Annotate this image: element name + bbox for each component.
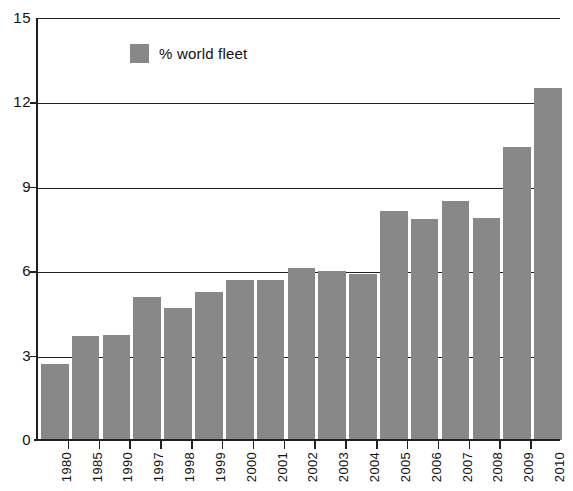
y-axis-tick-label: 3: [3, 348, 31, 363]
bar: [380, 211, 408, 440]
bar: [442, 201, 470, 440]
plot-area: [36, 18, 560, 440]
bars-layer: [38, 19, 560, 440]
bar: [411, 219, 439, 440]
x-axis-tick-mark: [68, 440, 70, 449]
x-axis-tick-label: 2001: [275, 452, 290, 482]
x-axis-tick-mark: [222, 440, 224, 449]
bar: [41, 364, 69, 440]
y-axis-tick-label: 15: [3, 10, 31, 25]
x-axis-tick-mark: [407, 440, 409, 449]
bar: [164, 308, 192, 440]
x-axis-tick-label: 2005: [398, 452, 413, 482]
y-axis-tick-label: 0: [3, 432, 31, 447]
x-axis-tick-label: 1985: [90, 452, 105, 482]
y-axis-tick-label: 6: [3, 263, 31, 278]
bar: [103, 335, 131, 441]
x-axis-tick-mark: [284, 440, 286, 449]
x-axis-tick-label: 2000: [244, 452, 259, 482]
bar: [133, 297, 161, 440]
y-axis-tick-label: 9: [3, 179, 31, 194]
bar: [226, 280, 254, 440]
bar: [72, 336, 100, 440]
x-axis-tick-label: 2009: [521, 452, 536, 482]
x-axis-tick-mark: [499, 440, 501, 449]
bar: [257, 280, 285, 440]
x-axis-tick-label: 1980: [59, 452, 74, 482]
x-axis-tick-label: 1998: [182, 452, 197, 482]
x-axis-tick-mark: [314, 440, 316, 449]
bar: [534, 88, 562, 440]
bar: [288, 268, 316, 440]
x-axis-baseline: [34, 439, 560, 441]
x-axis-tick-label: 2010: [552, 452, 567, 482]
x-axis-tick-label: 2003: [336, 452, 351, 482]
x-axis-tick-mark: [530, 440, 532, 449]
bar: [349, 274, 377, 440]
y-axis-tick-label: 12: [3, 94, 31, 109]
x-axis-tick-mark: [469, 440, 471, 449]
x-axis-tick-label: 2004: [367, 452, 382, 482]
x-axis-tick-mark: [191, 440, 193, 449]
x-axis-tick-label: 1999: [213, 452, 228, 482]
x-axis-tick-mark: [438, 440, 440, 449]
x-axis-tick-label: 2007: [460, 452, 475, 482]
x-axis-tick-label: 2002: [305, 452, 320, 482]
x-axis-tick-label: 2006: [429, 452, 444, 482]
x-axis-tick-label: 2008: [490, 452, 505, 482]
x-axis-tick-label: 1997: [151, 452, 166, 482]
x-axis-tick-mark: [253, 440, 255, 449]
legend: % world fleet: [130, 44, 247, 63]
x-axis-tick-mark: [345, 440, 347, 449]
x-axis-tick-mark: [160, 440, 162, 449]
x-axis-tick-mark: [129, 440, 131, 449]
legend-swatch-icon: [130, 44, 149, 63]
legend-label: % world fleet: [159, 45, 247, 62]
bar: [473, 218, 501, 440]
bar-chart: 03691215 1980198519901997199819992000200…: [0, 0, 573, 491]
bar: [318, 271, 346, 440]
x-axis-tick-label: 1990: [120, 452, 135, 482]
x-axis-tick-mark: [99, 440, 101, 449]
bar: [503, 147, 531, 440]
bar: [195, 292, 223, 440]
y-axis-labels: 03691215: [0, 0, 31, 491]
x-axis-tick-mark: [376, 440, 378, 449]
